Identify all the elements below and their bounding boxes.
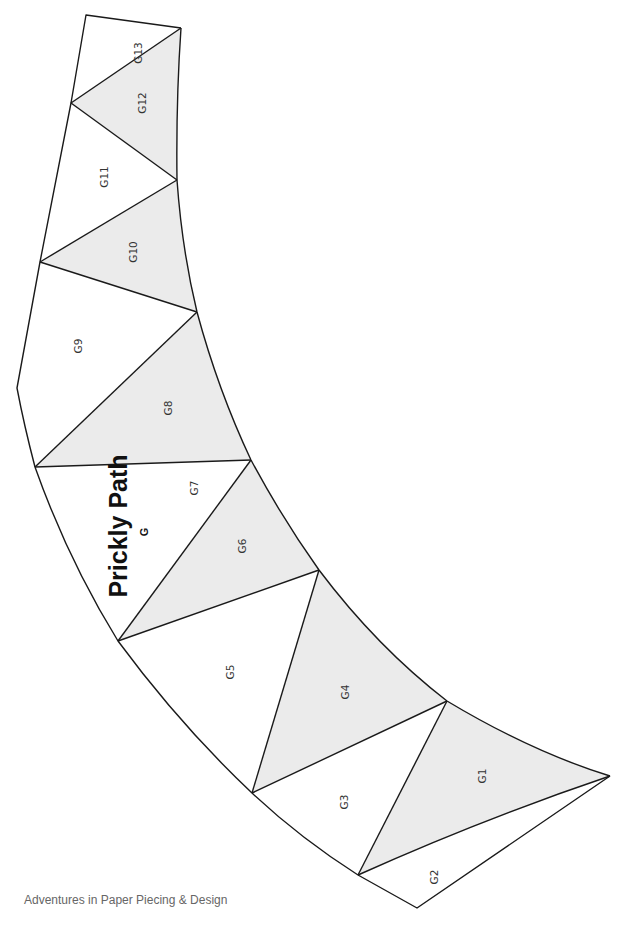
label-g9: G9 [72, 339, 84, 354]
shaded-pieces [35, 28, 610, 875]
section-letter: G [138, 528, 150, 537]
label-g7: G7 [188, 481, 200, 496]
piece-g1-fill [358, 701, 610, 875]
label-g13: G13 [132, 42, 144, 64]
footer-credit: Adventures in Paper Piecing & Design [24, 893, 227, 907]
label-g1: G1 [476, 769, 488, 784]
piece-g8-fill [35, 312, 251, 467]
label-g4: G4 [339, 684, 351, 699]
paper-piecing-template: G13 G12 G11 G10 G9 G8 G7 G6 G5 G4 G3 G1 … [0, 0, 625, 930]
label-g11: G11 [98, 166, 110, 188]
piece-g10-fill [40, 180, 197, 312]
label-g3: G3 [338, 795, 350, 810]
label-g5: G5 [224, 665, 236, 680]
label-g6: G6 [236, 538, 248, 553]
label-g10: G10 [127, 241, 139, 263]
label-g12: G12 [136, 92, 148, 114]
piece-g6-fill [118, 460, 319, 641]
pattern-title: Prickly Path [104, 454, 132, 597]
label-g2: G2 [428, 870, 440, 885]
label-g8: G8 [162, 401, 174, 416]
piece-g12-fill [71, 28, 181, 180]
